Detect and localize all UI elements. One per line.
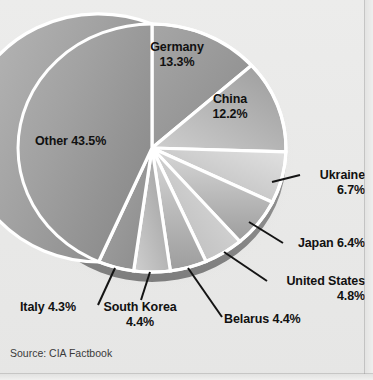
- slice-label-japan: Japan 6.4%: [235, 236, 365, 250]
- slice-label-china-pct: 12.2%: [187, 107, 273, 122]
- slice-label-south-korea: South Korea 4.4%: [90, 300, 190, 330]
- slice-label-china-name: China: [213, 92, 247, 106]
- slice-label-south-korea-pct: 4.4%: [90, 315, 190, 330]
- chart-frame: Germany 13.3% China 12.2% Other 43.5% Uk…: [0, 0, 373, 380]
- slice-label-united-states-pct: 4.8%: [235, 289, 365, 304]
- slice-label-china: China 12.2%: [187, 92, 273, 122]
- source-note: Source: CIA Factbook: [10, 347, 112, 359]
- slice-label-germany: Germany 13.3%: [127, 40, 227, 70]
- panel-edge-right: [364, 0, 365, 380]
- slice-label-ukraine-pct: 6.7%: [235, 183, 365, 198]
- slice-label-united-states-name: United States: [286, 274, 365, 288]
- slice-label-united-states: United States 4.8%: [235, 274, 365, 304]
- panel-edge-right-fill: [365, 0, 373, 380]
- slice-label-belarus: Belarus 4.4%: [224, 312, 301, 326]
- slice-label-ukraine-name: Ukraine: [320, 168, 365, 182]
- slice-label-germany-name: Germany: [150, 40, 204, 54]
- slice-label-ukraine: Ukraine 6.7%: [235, 168, 365, 198]
- slice-label-italy: Italy 4.3%: [20, 300, 76, 314]
- slice-label-germany-pct: 13.3%: [127, 55, 227, 70]
- panel-edge-bottom-fill: [0, 374, 373, 380]
- slice-label-other: Other 43.5%: [35, 134, 106, 148]
- panel-edge-bottom: [0, 373, 373, 374]
- slice-label-south-korea-name: South Korea: [103, 300, 176, 314]
